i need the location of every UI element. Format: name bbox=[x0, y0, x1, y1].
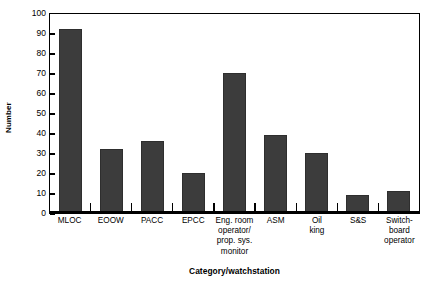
y-axis-tick-label: 40 bbox=[18, 129, 46, 138]
x-axis-category-labels: MLOCEOOWPACCEPCCEng. room operator/ prop… bbox=[49, 216, 420, 257]
y-axis-tick-label: 0 bbox=[18, 209, 46, 218]
y-axis-title: Number bbox=[2, 78, 16, 158]
y-axis-tick-label: 100 bbox=[18, 9, 46, 18]
x-axis-tick-mark bbox=[378, 203, 379, 212]
x-axis-tick-mark bbox=[90, 203, 91, 212]
y-axis-tick-label: 20 bbox=[18, 169, 46, 178]
bar bbox=[223, 73, 246, 213]
bar bbox=[264, 135, 287, 213]
x-axis-category-label: EOOW bbox=[90, 216, 131, 257]
plot-area bbox=[49, 13, 420, 213]
bar-slot bbox=[50, 14, 91, 213]
x-axis-category-label: Switch- board operator bbox=[379, 216, 420, 257]
bar-slot bbox=[214, 14, 255, 213]
x-axis-category-label: S&S bbox=[338, 216, 379, 257]
y-axis-tick-label: 90 bbox=[18, 29, 46, 38]
x-axis-category-label: EPCC bbox=[173, 216, 214, 257]
bar bbox=[59, 29, 82, 213]
x-axis-category-label: ASM bbox=[255, 216, 296, 257]
x-axis-tick-mark bbox=[213, 203, 214, 212]
x-axis-tick-mark bbox=[296, 203, 297, 212]
bar-slot bbox=[255, 14, 296, 213]
x-axis-tick-mark bbox=[254, 203, 255, 212]
bar-slot bbox=[337, 14, 378, 213]
x-axis-title: Category/watchstation bbox=[49, 266, 420, 276]
bar-slot bbox=[296, 14, 337, 213]
x-axis-category-label: MLOC bbox=[49, 216, 90, 257]
bar-series bbox=[50, 14, 419, 213]
x-axis-category-label: Eng. room operator/ prop. sys. monitor bbox=[214, 216, 255, 257]
y-axis-tick-labels: 0102030405060708090100 bbox=[18, 13, 46, 213]
y-axis-tick-label: 60 bbox=[18, 89, 46, 98]
x-axis-tick-mark bbox=[131, 203, 132, 212]
bar-slot bbox=[173, 14, 214, 213]
x-axis-category-label: PACC bbox=[131, 216, 172, 257]
bar-slot bbox=[132, 14, 173, 213]
bar-slot bbox=[91, 14, 132, 213]
x-axis-tick-mark bbox=[337, 203, 338, 212]
x-axis-category-label: Oil king bbox=[296, 216, 337, 257]
x-axis-tick-mark bbox=[172, 203, 173, 212]
y-axis-tick-label: 50 bbox=[18, 109, 46, 118]
bar-chart-figure: Number 0102030405060708090100 MLOCEOOWPA… bbox=[0, 0, 445, 285]
y-axis-tick-label: 30 bbox=[18, 149, 46, 158]
x-axis-tick-marks bbox=[49, 203, 420, 213]
bar-slot bbox=[378, 14, 419, 213]
y-axis-tick-label: 80 bbox=[18, 49, 46, 58]
y-axis-tick-label: 10 bbox=[18, 189, 46, 198]
y-axis-tick-label: 70 bbox=[18, 69, 46, 78]
